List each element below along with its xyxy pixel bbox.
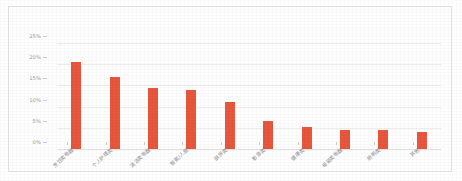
x-axis-tick-mark <box>106 142 107 145</box>
y-axis-tick-label: 5% <box>33 118 41 124</box>
y-axis-tick-mark <box>43 78 47 79</box>
x-axis-tick-label: 母婴类电器 <box>320 146 344 169</box>
x-axis-tick-label: 智能/人居 <box>169 146 191 166</box>
x-axis-tick-mark <box>182 142 183 145</box>
y-axis-tick-mark <box>43 57 47 58</box>
x-axis-tick-mark <box>298 142 299 145</box>
y-axis-tick-label: 25% <box>29 33 41 39</box>
x-axis-tick-mark <box>259 142 260 145</box>
x-axis-tick-label: 影音类 <box>251 146 267 162</box>
x-axis-tick-label: 照明类 <box>366 146 382 162</box>
x-axis-tick-mark <box>144 142 145 145</box>
y-axis-tick-mark <box>43 100 47 101</box>
y-axis-tick-mark <box>43 36 47 37</box>
x-axis-tick-label: 健康类 <box>289 146 305 162</box>
y-axis-tick-mark <box>43 142 47 143</box>
y-axis-tick-label: 15% <box>29 75 41 81</box>
y-axis: 0%5%10%15%20%25%烹饪类电器个人护理类清洁类电器智能/人居厨房类影… <box>0 0 462 181</box>
x-axis-tick-mark <box>221 142 222 145</box>
x-axis-tick-mark <box>413 142 414 145</box>
x-axis-tick-label: 个人护理类 <box>89 146 113 169</box>
y-axis-tick-mark <box>43 121 47 122</box>
x-axis-tick-label: 烹饪类电器 <box>51 146 75 169</box>
y-axis-tick-label: 20% <box>29 54 41 60</box>
y-axis-tick-label: 0% <box>33 139 41 145</box>
x-axis-tick-mark <box>336 142 337 145</box>
x-axis-tick-label: 清洁类电器 <box>128 146 152 169</box>
x-axis-tick-label: 其他 <box>408 146 420 158</box>
x-axis-tick-mark <box>67 142 68 145</box>
y-axis-tick-label: 10% <box>29 97 41 103</box>
x-axis-tick-mark <box>374 142 375 145</box>
x-axis-tick-label: 厨房类 <box>212 146 228 162</box>
